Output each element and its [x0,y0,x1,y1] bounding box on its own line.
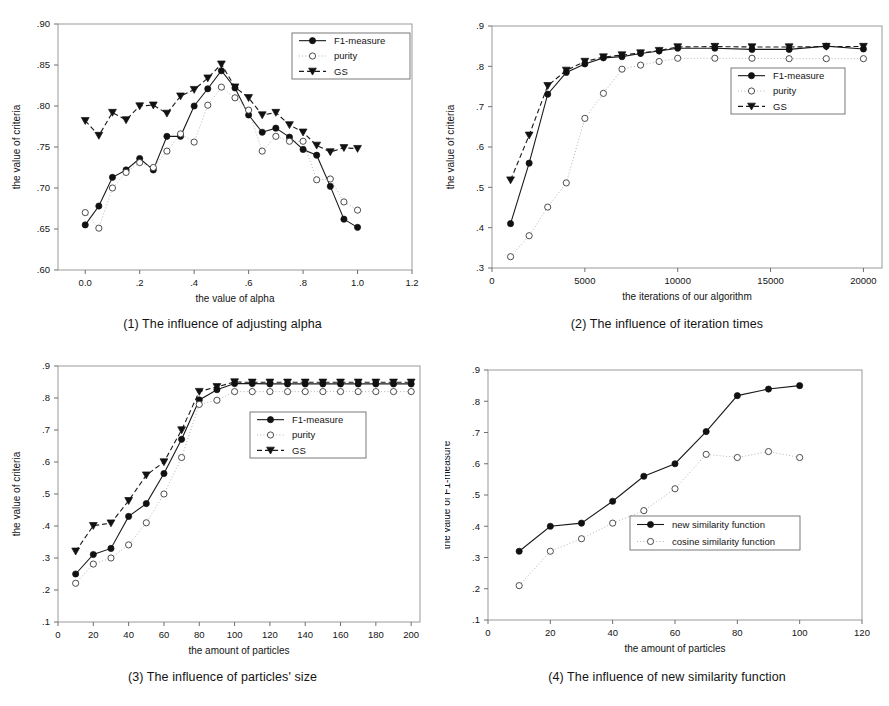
y-tick-label: .8 [476,61,484,72]
y-axis-title: the value of criteria [11,451,22,536]
y-tick-label: .3 [476,262,484,273]
legend: F1-measurepurityGS [250,412,366,458]
x-tick-label: 20 [88,629,99,640]
x-tick-label: 100 [792,627,808,638]
x-tick-label: 40 [607,627,618,638]
x-tick-label: .4 [190,277,198,288]
y-tick-label: .1 [472,614,480,625]
y-tick-label: .5 [42,488,50,499]
y-tick-label: .65 [37,223,50,234]
x-tick-label: .6 [245,277,253,288]
y-tick-label: .3 [472,552,480,563]
legend: new similarity functioncosine similarity… [630,516,800,550]
panel-1-caption: (1) The influence of adjusting alpha [0,317,445,331]
y-axis-title: the value of criteria [11,104,22,189]
x-tick-label: 0 [485,627,490,638]
legend-label: cosine similarity function [672,536,775,547]
x-axis-title: the amount of particles [624,643,725,654]
y-tick-label: .2 [472,583,480,594]
y-tick-label: .1 [42,616,50,627]
chart-4-canvas: 020406080100120.1.2.3.4.5.6.7.8.9the amo… [445,353,889,706]
y-tick-label: .7 [472,427,480,438]
x-tick-label: 20000 [850,275,876,286]
series-line-3 [76,382,412,551]
plot-frame [488,370,862,620]
y-tick-label: .8 [42,392,50,403]
x-tick-label: 10000 [665,275,691,286]
y-tick-label: .90 [37,18,50,29]
panel-4-caption: (4) The influence of new similarity func… [445,670,889,684]
legend-label: F1-measure [292,414,343,425]
y-tick-label: .5 [472,489,480,500]
chart-2-canvas: 05000100001500020000.3.4.5.6.7.8.9the it… [445,0,889,353]
x-tick-label: .2 [136,277,144,288]
series-markers-1 [73,381,415,578]
y-tick-label: .7 [42,424,50,435]
chart-3-canvas: 020406080100120140160180200.1.2.3.4.5.6.… [0,353,445,706]
panel-3-particles-size: 020406080100120140160180200.1.2.3.4.5.6.… [0,353,445,706]
y-tick-label: .7 [476,101,484,112]
x-tick-label: 15000 [757,275,783,286]
y-tick-label: .4 [476,222,484,233]
y-axis-title: the value of F1-measure [445,440,452,549]
legend-label: F1-measure [773,70,824,81]
legend-label: purity [292,429,315,440]
panel-1-adjusting-alpha: 0.0.2.4.6.81.01.2.60.65.70.75.80.85.90th… [0,0,445,353]
y-tick-label: .2 [42,584,50,595]
y-tick-label: .80 [37,100,50,111]
x-tick-label: 0.0 [79,277,92,288]
x-axis-title: the iterations of our algorithm [622,291,752,302]
series-markers-1 [82,68,361,231]
legend-label: purity [334,50,357,61]
x-tick-label: 180 [368,629,384,640]
x-tick-label: 60 [159,629,170,640]
y-tick-label: .60 [37,264,50,275]
legend-label: purity [773,85,796,96]
x-tick-label: 140 [297,629,313,640]
legend-label: new similarity function [672,519,765,530]
x-tick-label: 1.2 [405,277,418,288]
x-tick-label: 80 [194,629,205,640]
x-tick-label: 0 [489,275,494,286]
x-tick-label: 100 [227,629,243,640]
plot-frame [492,26,882,268]
x-tick-label: 0 [55,629,60,640]
y-tick-label: .9 [472,364,480,375]
series-markers-3 [72,379,415,555]
legend-label: F1-measure [334,35,385,46]
figure-grid: 0.0.2.4.6.81.01.2.60.65.70.75.80.85.90th… [0,0,889,706]
legend-label: GS [334,66,348,77]
y-tick-label: .6 [476,141,484,152]
x-tick-label: .8 [299,277,307,288]
x-tick-label: 200 [403,629,419,640]
y-tick-label: .9 [42,360,50,371]
panel-3-caption: (3) The influence of particles' size [0,670,445,684]
plot-frame [58,366,420,622]
panel-2-caption: (2) The influence of iteration times [445,317,889,331]
x-tick-label: 120 [262,629,278,640]
y-tick-label: .9 [476,20,484,31]
x-tick-label: 160 [333,629,349,640]
x-tick-label: 60 [670,627,681,638]
x-axis-title: the value of alpha [196,293,275,304]
y-tick-label: .75 [37,141,50,152]
x-tick-label: 1.0 [351,277,364,288]
y-tick-label: .6 [42,456,50,467]
y-tick-label: .6 [472,458,480,469]
legend-label: GS [773,101,787,112]
y-axis-title: the value of criteria [445,104,456,189]
panel-4-new-similarity-function: 020406080100120.1.2.3.4.5.6.7.8.9the amo… [445,353,889,706]
legend-label: GS [292,445,306,456]
panel-2-iteration-times: 05000100001500020000.3.4.5.6.7.8.9the it… [445,0,889,353]
chart-1-canvas: 0.0.2.4.6.81.01.2.60.65.70.75.80.85.90th… [0,0,445,353]
y-tick-label: .85 [37,59,50,70]
y-tick-label: .4 [472,521,480,532]
y-tick-label: .5 [476,182,484,193]
y-tick-label: .4 [42,520,50,531]
y-tick-label: .70 [37,182,50,193]
legend: F1-measurepurityGS [292,33,410,79]
y-tick-label: .3 [42,552,50,563]
x-tick-label: 40 [123,629,134,640]
x-tick-label: 5000 [574,275,595,286]
y-tick-label: .8 [472,396,480,407]
